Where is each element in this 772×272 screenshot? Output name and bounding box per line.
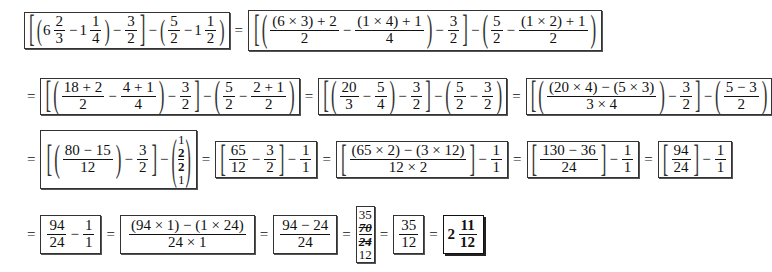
step-4-4: 35 70 24 12 <box>356 206 375 263</box>
step-1-2: [ ( (6 × 3) + 22 − (1 × 4) + 14 ) − 32 ]… <box>248 10 602 51</box>
left-paren: ( <box>37 13 42 47</box>
fraction: 32 <box>125 14 137 47</box>
cancelled-fraction: 35 70 24 12 <box>359 208 372 261</box>
equals-sign: = <box>27 88 35 105</box>
step-3-1: [ ( 80 − 1512 ) − 32 ] − ( 1 2 2 1 ) <box>40 130 196 189</box>
step-4-2: (94 × 1) − (1 × 24)24 × 1 <box>120 215 255 254</box>
row-1: [ ( 6 23 − 1 14 ) − 32 ] − ( 52 − 1 12 )… <box>24 10 602 51</box>
fraction: 23 <box>54 14 66 47</box>
whole-number: 6 <box>43 22 51 39</box>
row-3: = [ ( 80 − 1512 ) − 32 ] − ( 1 2 2 1 ) =… <box>22 130 732 189</box>
step-2-1: [ ( 18 + 22 − 4 + 14 ) − 32 ] − ( 52 − 2… <box>40 78 299 115</box>
final-answer: 2 1112 <box>443 215 485 254</box>
step-4-3: 94 − 2424 <box>273 215 337 254</box>
step-3-2: [ 6512 − 32 ] − 11 <box>215 141 317 178</box>
step-2-3: [ ( (20 × 4) − (5 × 3)3 × 4 ) − 32 ] − (… <box>526 78 772 115</box>
step-4-5: 3512 <box>393 215 424 254</box>
step-4-1: 9424 − 11 <box>40 215 101 254</box>
cancelled-fraction: 1 2 2 1 <box>178 133 185 186</box>
minus: − <box>69 22 77 39</box>
row-4: = 9424 − 11 = (94 × 1) − (1 × 24)24 × 1 … <box>22 206 484 263</box>
left-bracket: [ <box>29 8 35 52</box>
equals-sign: = <box>235 22 243 39</box>
step-3-5: [ 9424 ] − 11 <box>658 141 732 178</box>
step-3-3: [ (65 × 2) − (3 × 12)12 × 2 ] − 11 <box>336 141 508 178</box>
step-2-2: [ ( 203 − 54 ) − 32 ] − ( 52 − 32 ) <box>318 78 507 115</box>
fraction: 14 <box>90 14 102 47</box>
step-3-4: [ 130 − 3624 ] − 11 <box>527 141 640 178</box>
row-2: = [ ( 18 + 22 − 4 + 14 ) − 32 ] − ( 52 −… <box>22 78 772 115</box>
step-1-1: [ ( 6 23 − 1 14 ) − 32 ] − ( 52 − 1 12 ) <box>24 12 230 49</box>
